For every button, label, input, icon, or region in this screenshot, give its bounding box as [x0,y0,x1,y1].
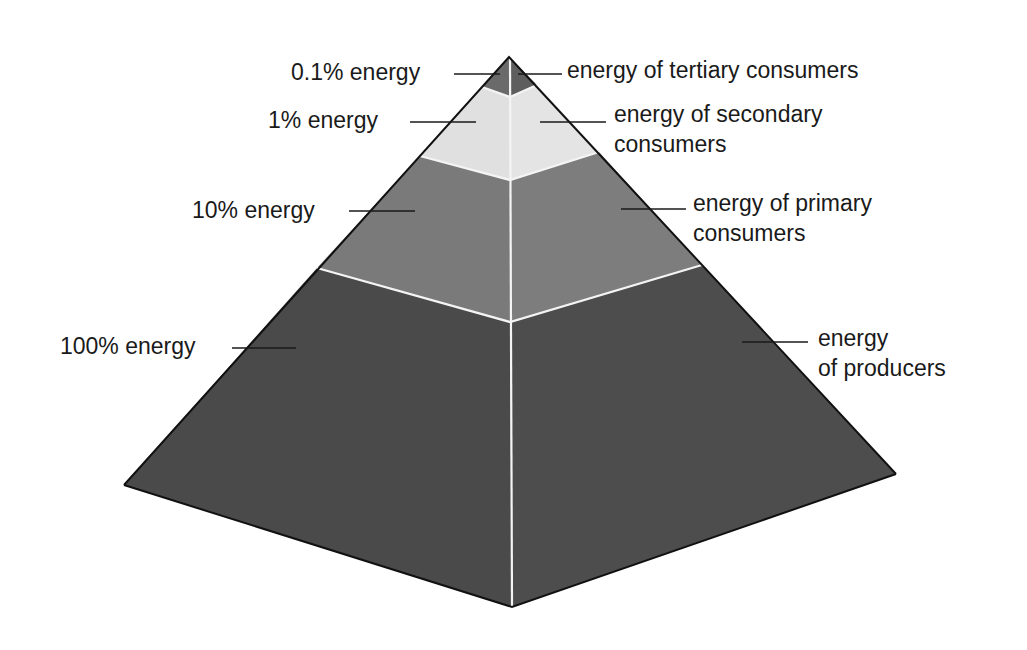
label-secondary-line2: consumers [614,131,822,158]
producers-tier-left-face [124,268,512,607]
label-tertiary-consumers: energy of tertiary consumers [567,57,858,84]
label-secondary-line1: energy of secondary [614,101,822,128]
label-producers-line2: of producers [818,355,946,382]
label-secondary-percent: 1% energy [268,107,378,134]
producers-tier-right-face [510,265,896,607]
label-primary-percent: 10% energy [192,197,315,224]
label-producers-percent: 100% energy [60,333,196,360]
label-primary-consumers: energy of primary consumers [693,190,872,247]
label-primary-line2: consumers [693,220,872,247]
label-producers-line1: energy [818,325,946,352]
label-tertiary-percent: 0.1% energy [291,59,420,86]
label-primary-line1: energy of primary [693,190,872,217]
label-secondary-consumers: energy of secondary consumers [614,101,822,158]
label-producers: energy of producers [818,325,946,382]
